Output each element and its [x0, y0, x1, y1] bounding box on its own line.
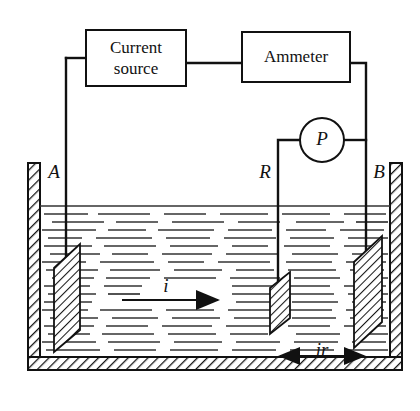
tank-vessel: [28, 163, 402, 370]
probe-label: P: [315, 128, 328, 149]
electrode-a-label: A: [46, 161, 60, 182]
electrode-b-plate: [354, 236, 382, 348]
electrode-a-plate: [54, 244, 80, 352]
ammeter-label: Ammeter: [264, 47, 329, 66]
circuit-wiring: [66, 58, 366, 305]
ammeter-box[interactable]: Ammeter: [242, 32, 350, 82]
tank-right-wall: [390, 163, 402, 357]
current-source-box[interactable]: Current source: [86, 30, 186, 86]
distance-label: ir: [316, 339, 329, 360]
electrode-r-label: R: [258, 161, 271, 182]
current-source-label-line1: Current: [110, 38, 162, 57]
tank-bottom-wall: [28, 357, 402, 370]
probe-p[interactable]: P: [300, 118, 344, 162]
tank-left-wall: [28, 163, 40, 357]
electrode-r-plate: [270, 272, 290, 334]
liquid-electrolyte: [40, 206, 390, 350]
current-label: i: [163, 275, 168, 296]
current-source-label-line2: source: [114, 59, 158, 78]
electrode-b-label: B: [373, 161, 385, 182]
electrolytic-tank-diagram: Current source Ammeter P A R B i ir: [0, 0, 420, 411]
current-direction-annotation: i: [122, 275, 218, 300]
